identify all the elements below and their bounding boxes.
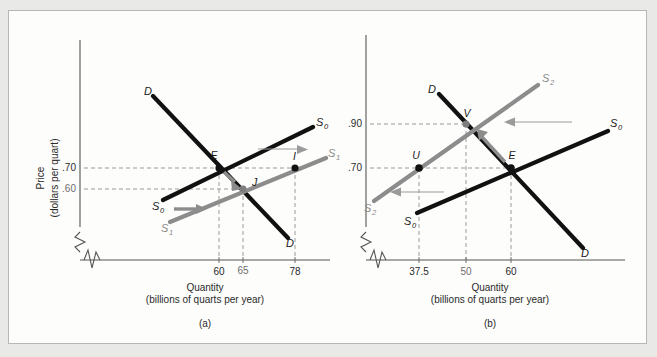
panel-a-x-axis-label-line1: Quantity xyxy=(186,282,223,293)
panel-b-curve-label-s0-bottom-letter: S xyxy=(404,215,412,227)
panel-b-curve-label-s2-top-sub: 2 xyxy=(549,78,555,87)
panel-b-shift-arrow-upper xyxy=(504,118,572,127)
panel-b-point-V xyxy=(462,120,469,127)
panel-b-point-label-E: E xyxy=(508,149,516,161)
panel-a-y-axis-label-line2: (dollars per quart) xyxy=(49,139,60,218)
panel-b-xtick-60: 60 xyxy=(505,266,517,277)
panel-a-xtick-65: 65 xyxy=(237,265,249,276)
panel-a-curve-label-demand-bottom: D xyxy=(286,237,294,249)
panel-a-curve-label-demand-top: D xyxy=(144,85,152,97)
panel-b-curve-label-s0-bottom-sub: 0 xyxy=(412,221,417,230)
panel-b-x-axis-label-line2: (billions of quarts per year) xyxy=(431,294,549,305)
panel-b-curve-supply-s2 xyxy=(374,85,538,201)
panel-b-curve-label-demand-bottom: D xyxy=(581,247,589,259)
panel-a-y-axis-label-line1: Price xyxy=(35,166,46,189)
panel-a-caption: (a) xyxy=(199,318,211,329)
panel-a-curve-label-s1-top: S 1 xyxy=(328,147,340,162)
panel-b-curve-label-s2-top-letter: S xyxy=(542,72,550,84)
panel-b-curve-label-s0-top-letter: S xyxy=(610,117,618,129)
panel-a-ytick-060: .60 xyxy=(62,183,76,194)
panel-a-shift-arrow-upper xyxy=(258,145,308,154)
panel-a-point-J xyxy=(240,186,247,193)
panel-b-point-label-V: V xyxy=(463,107,471,119)
panel-a-y-axis-break-icon xyxy=(75,232,85,252)
panel-a-xtick-78: 78 xyxy=(289,266,301,277)
panel-b-xtick-375: 37.5 xyxy=(409,266,429,277)
panel-a: E J I D S 0 S 1 S 0 S 1 D .70 xyxy=(35,40,340,329)
panel-b-x-axis-break-icon xyxy=(370,250,386,268)
panel-b-equilibrium-move-arrow xyxy=(477,129,505,162)
panel-b-curve-label-s0-top-sub: 0 xyxy=(618,123,623,132)
panel-b-curve-label-s2-bottom-sub: 2 xyxy=(371,208,377,217)
panel-b-curve-label-s0-bottom: S 0 xyxy=(404,215,417,230)
panel-a-curve-label-s0-top-letter: S xyxy=(316,116,324,128)
panel-a-curve-label-s1-top-letter: S xyxy=(328,147,336,159)
panel-a-curve-label-s1-bottom: S 1 xyxy=(161,222,173,237)
supply-demand-figure: E J I D S 0 S 1 S 0 S 1 D .70 xyxy=(0,0,657,357)
panel-a-curve-label-s0-top-sub: 0 xyxy=(324,122,329,131)
panel-b-point-label-U: U xyxy=(412,149,420,161)
panel-a-point-label-I: I xyxy=(293,150,296,162)
figure-root: E J I D S 0 S 1 S 0 S 1 D .70 xyxy=(0,0,657,357)
panel-b-curve-supply-s0 xyxy=(417,131,608,213)
panel-a-ytick-070: .70 xyxy=(62,162,76,173)
panel-b-ytick-090: .90 xyxy=(348,118,362,129)
panel-b-shift-arrow-lower xyxy=(390,188,444,197)
panel-b-xtick-50: 50 xyxy=(460,266,472,277)
panel-b-curve-label-s2-top: S 2 xyxy=(542,72,555,87)
panel-b-point-U xyxy=(415,164,423,172)
panel-a-point-label-E: E xyxy=(210,149,218,161)
panel-a-curve-label-s0-top: S 0 xyxy=(316,116,329,131)
panel-b-point-E xyxy=(507,164,515,172)
panel-b: V U E D S 2 S 0 S 2 S 0 D .90 xyxy=(348,35,625,329)
panel-b-curve-label-s2-bottom-letter: S xyxy=(364,202,372,214)
panel-b-x-axis-label-line1: Quantity xyxy=(471,282,508,293)
panel-a-point-label-J: J xyxy=(251,176,258,188)
panel-a-curve-label-s0-bottom-letter: S xyxy=(152,200,160,212)
panel-b-curve-label-s0-top: S 0 xyxy=(610,117,623,132)
panel-a-curve-label-s1-top-sub: 1 xyxy=(336,153,340,162)
panel-a-curve-label-s1-bottom-sub: 1 xyxy=(169,228,173,237)
panel-a-curve-label-s0-bottom: S 0 xyxy=(152,200,165,215)
panel-a-point-E xyxy=(215,164,222,171)
panel-a-equilibrium-move-arrow xyxy=(224,172,242,191)
panel-a-point-I xyxy=(291,164,298,171)
panel-b-curve-label-demand-top: D xyxy=(428,83,436,95)
panel-a-x-axis-break-icon xyxy=(84,250,100,268)
panel-b-caption: (b) xyxy=(484,318,496,329)
panel-a-curve-label-s1-bottom-letter: S xyxy=(161,222,169,234)
panel-b-ytick-070: .70 xyxy=(348,162,362,173)
panel-b-y-axis-break-icon xyxy=(361,232,371,252)
panel-a-xtick-60: 60 xyxy=(213,266,225,277)
panel-a-curve-label-s0-bottom-sub: 0 xyxy=(160,206,165,215)
panel-a-x-axis-label-line2: (billions of quarts per year) xyxy=(146,294,264,305)
